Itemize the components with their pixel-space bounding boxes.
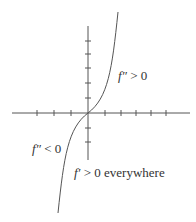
label-concave-down: f″ < 0 [32, 142, 61, 155]
label-concave-up: f″ > 0 [118, 69, 147, 82]
graph-canvas [0, 0, 196, 222]
function-concavity-diagram: f″ > 0 f″ < 0 f′ > 0 everywhere [0, 0, 196, 222]
label-increasing: f′ > 0 everywhere [74, 166, 165, 179]
